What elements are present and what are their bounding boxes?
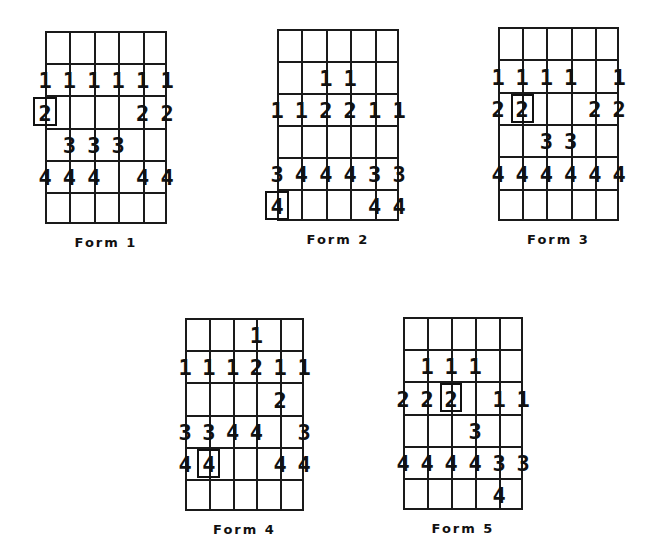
grid-row-line bbox=[405, 349, 521, 351]
grid-digit: 1 bbox=[157, 70, 177, 92]
highlight-box bbox=[511, 94, 534, 123]
grid-digit: 3 bbox=[561, 131, 581, 153]
grid-digit: 2 bbox=[246, 357, 266, 379]
grid-digit: 1 bbox=[561, 67, 581, 89]
form-label: Form 3 bbox=[527, 232, 590, 247]
grid-digit: 3 bbox=[294, 422, 314, 444]
grid-row-line bbox=[187, 382, 302, 384]
grid-digit: 2 bbox=[609, 99, 629, 121]
grid-digit: 1 bbox=[59, 70, 79, 92]
grid-digit: 4 bbox=[489, 485, 509, 507]
grid-digit: 1 bbox=[35, 70, 55, 92]
grid-row-line bbox=[500, 189, 617, 191]
grid-digit: 4 bbox=[246, 422, 266, 444]
highlight-box bbox=[197, 449, 220, 478]
grid-digit: 1 bbox=[465, 356, 485, 378]
grid-row-line bbox=[500, 59, 617, 61]
grid-digit: 4 bbox=[417, 453, 437, 475]
grid-digit: 4 bbox=[561, 164, 581, 186]
grid-digit: 4 bbox=[291, 164, 311, 186]
grid-digit: 4 bbox=[488, 164, 508, 186]
grid-row-line bbox=[279, 157, 397, 159]
highlight-box bbox=[265, 191, 288, 220]
grid-digit: 4 bbox=[270, 454, 290, 476]
grid-row-line bbox=[500, 124, 617, 126]
grid-row-line bbox=[405, 478, 521, 480]
grid-digit: 3 bbox=[365, 164, 385, 186]
grid-digit: 4 bbox=[223, 422, 243, 444]
grid-digit: 4 bbox=[512, 164, 532, 186]
grid-digit: 3 bbox=[108, 135, 128, 157]
grid-row-line bbox=[47, 63, 165, 65]
grid-digit: 2 bbox=[585, 99, 605, 121]
grid-digit: 3 bbox=[536, 131, 556, 153]
grid-digit: 2 bbox=[393, 389, 413, 411]
grid-digit: 1 bbox=[441, 356, 461, 378]
grid-digit: 3 bbox=[84, 135, 104, 157]
grid-digit: 2 bbox=[157, 103, 177, 125]
grid-digit: 4 bbox=[465, 453, 485, 475]
grid-digit: 1 bbox=[489, 389, 509, 411]
grid-row-line bbox=[405, 414, 521, 416]
grid-row-line bbox=[500, 156, 617, 158]
grid-row-line bbox=[279, 125, 397, 127]
grid-row-line bbox=[187, 350, 302, 352]
grid-digit: 1 bbox=[488, 67, 508, 89]
grid-digit: 1 bbox=[365, 100, 385, 122]
grid-digit: 2 bbox=[133, 103, 153, 125]
grid-digit: 4 bbox=[441, 453, 461, 475]
grid-digit: 2 bbox=[270, 390, 290, 412]
form-grid bbox=[45, 31, 167, 224]
grid-row-line bbox=[279, 93, 397, 95]
grid-digit: 4 bbox=[157, 167, 177, 189]
grid-digit: 4 bbox=[340, 164, 360, 186]
grid-digit: 1 bbox=[536, 67, 556, 89]
grid-digit: 1 bbox=[291, 100, 311, 122]
grid-row-line bbox=[279, 61, 397, 63]
grid-row-line bbox=[47, 160, 165, 162]
grid-row-line bbox=[187, 415, 302, 417]
grid-digit: 1 bbox=[513, 389, 533, 411]
grid-digit: 1 bbox=[316, 68, 336, 90]
grid-digit: 3 bbox=[389, 164, 409, 186]
grid-digit: 1 bbox=[294, 357, 314, 379]
form-label: Form 2 bbox=[307, 232, 370, 247]
grid-digit: 4 bbox=[35, 167, 55, 189]
grid-digit: 4 bbox=[175, 454, 195, 476]
grid-digit: 2 bbox=[417, 389, 437, 411]
form-grid bbox=[498, 27, 619, 221]
grid-digit: 3 bbox=[513, 453, 533, 475]
form-label: Form 4 bbox=[213, 522, 276, 537]
grid-digit: 1 bbox=[175, 357, 195, 379]
form-label: Form 5 bbox=[432, 521, 495, 536]
grid-row-line bbox=[405, 446, 521, 448]
grid-digit: 1 bbox=[609, 67, 629, 89]
grid-digit: 1 bbox=[340, 68, 360, 90]
grid-digit: 1 bbox=[389, 100, 409, 122]
grid-digit: 2 bbox=[340, 100, 360, 122]
highlight-box bbox=[440, 383, 463, 412]
grid-digit: 3 bbox=[465, 421, 485, 443]
grid-row-line bbox=[279, 189, 397, 191]
grid-digit: 4 bbox=[133, 167, 153, 189]
grid-digit: 4 bbox=[294, 454, 314, 476]
grid-digit: 4 bbox=[389, 196, 409, 218]
grid-digit: 1 bbox=[223, 357, 243, 379]
form-grid bbox=[403, 317, 523, 510]
form-grid bbox=[277, 29, 399, 221]
grid-digit: 4 bbox=[585, 164, 605, 186]
grid-digit: 1 bbox=[417, 356, 437, 378]
grid-digit: 3 bbox=[489, 453, 509, 475]
grid-digit: 4 bbox=[316, 164, 336, 186]
grid-digit: 1 bbox=[133, 70, 153, 92]
grid-digit: 3 bbox=[267, 164, 287, 186]
grid-digit: 2 bbox=[488, 99, 508, 121]
grid-digit: 4 bbox=[536, 164, 556, 186]
grid-digit: 1 bbox=[108, 70, 128, 92]
grid-digit: 4 bbox=[59, 167, 79, 189]
grid-row-line bbox=[405, 381, 521, 383]
grid-digit: 4 bbox=[84, 167, 104, 189]
grid-digit: 2 bbox=[316, 100, 336, 122]
grid-digit: 1 bbox=[246, 325, 266, 347]
grid-digit: 1 bbox=[84, 70, 104, 92]
